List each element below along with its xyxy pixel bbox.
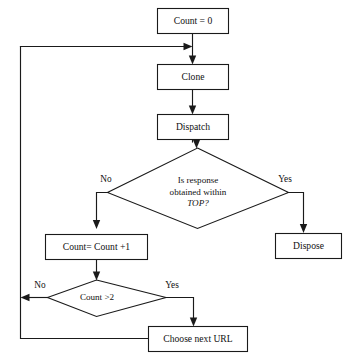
branch-label-threshold-yes: Yes — [165, 280, 179, 290]
node-response-check-line1: Is response — [178, 175, 219, 185]
edge-clone-to-dispatch — [189, 90, 196, 115]
node-count-threshold[interactable]: Count >2 — [48, 280, 167, 317]
edge-increment-to-threshold — [93, 260, 100, 281]
edge-count-init-to-clone — [189, 34, 196, 65]
node-dispatch[interactable]: Dispatch — [158, 115, 229, 140]
node-response-check-line2: obtained within — [170, 187, 227, 197]
node-count-increment[interactable]: Count= Count +1 — [46, 235, 148, 260]
node-count-init-label: Count = 0 — [174, 15, 213, 26]
node-count-threshold-label: Count >2 — [80, 292, 115, 302]
edge-loop-return-to-clone — [21, 43, 193, 50]
node-clone-label: Clone — [182, 71, 205, 82]
edge-response-no-to-increment — [93, 193, 108, 230]
node-choose-next-url-label: Choose next URL — [163, 333, 232, 344]
edge-threshold-yes-to-choose-url — [166, 298, 197, 327]
edge-response-yes-to-dispose — [289, 193, 308, 234]
flowchart-canvas: Count = 0 Clone Dispatch Is response obt… — [0, 0, 352, 362]
node-count-increment-label: Count= Count +1 — [63, 241, 131, 252]
node-clone[interactable]: Clone — [158, 65, 229, 90]
branch-label-threshold-no: No — [34, 280, 46, 290]
branch-label-response-no: No — [100, 174, 112, 184]
node-count-init[interactable]: Count = 0 — [158, 9, 229, 34]
branch-label-response-yes: Yes — [278, 174, 292, 184]
node-choose-next-url[interactable]: Choose next URL — [149, 327, 248, 352]
node-dispose-label: Dispose — [293, 240, 324, 251]
edge-threshold-no-to-loop — [21, 294, 48, 301]
flowchart-svg: Count = 0 Clone Dispatch Is response obt… — [0, 0, 352, 362]
node-dispatch-label: Dispatch — [176, 121, 210, 132]
node-dispose[interactable]: Dispose — [276, 234, 342, 259]
node-response-check[interactable]: Is response obtained within TOP? — [108, 148, 289, 229]
node-response-check-line3: TOP? — [187, 198, 209, 208]
